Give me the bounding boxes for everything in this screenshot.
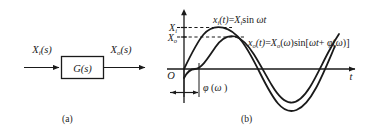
equation-input-signal: xi(t)=Xisin ωt <box>212 14 267 26</box>
figure-svg: Xi(s) G(s) Xo(s) <box>0 0 381 136</box>
origin-label: O <box>167 70 175 81</box>
input-signal-label: Xi(s) <box>31 44 52 57</box>
figure-container: Xi(s) G(s) Xo(s) <box>0 0 381 136</box>
transfer-function-label: G(s) <box>73 63 92 75</box>
panel-b-caption: (b) <box>241 114 252 124</box>
equation-output-signal: xo(t)=Xo(ω)sin[ωt+ φ(ω)] <box>247 37 350 49</box>
panel-a-block-diagram: Xi(s) G(s) Xo(s) <box>24 44 145 79</box>
panel-b-waveform-plot: Xi Xo O t xi(t)=Xisin ωt xo(t)=Xo(ω)sin[… <box>167 9 355 111</box>
output-signal-label: Xo(s) <box>109 44 132 57</box>
y-axis-arrowhead <box>181 9 187 15</box>
x-axis-label: t <box>350 71 354 82</box>
phase-label: φ (ω ) <box>203 82 227 94</box>
panel-a-caption: (a) <box>62 114 73 124</box>
